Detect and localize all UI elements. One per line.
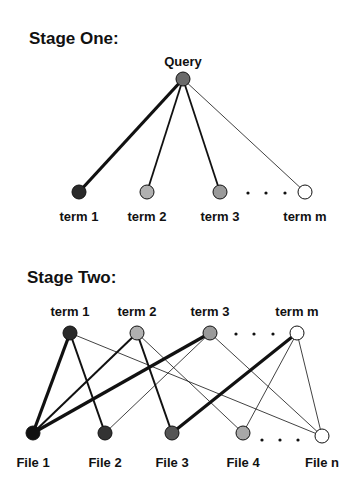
stage-one-term-2-node-icon	[140, 185, 154, 199]
retrieval-network-diagram: Stage One: Queryterm 1term 2term 3term m…	[0, 0, 344, 490]
stage-two-nodes: term 1term 2term 3term mFile 1File 2File…	[16, 304, 339, 470]
stage-one-term-3-label: term 3	[200, 209, 239, 224]
file-3-node-icon	[165, 426, 179, 440]
ellipsis-dot	[264, 191, 267, 194]
file-2-node-icon	[98, 426, 112, 440]
ellipsis-dot	[260, 438, 263, 441]
stage-two-term-1-label: term 1	[50, 304, 89, 319]
stage-two-term-3-node-icon	[203, 326, 217, 340]
stage-one-term-2-label: term 2	[127, 209, 166, 224]
stage-two-term-3-label: term 3	[190, 304, 229, 319]
file-5-node-icon	[315, 429, 329, 443]
query-label: Query	[164, 54, 202, 69]
ellipsis-dot	[234, 332, 237, 335]
stage-two-term-4-node-icon	[290, 326, 304, 340]
ellipsis-dot	[271, 332, 274, 335]
stage-one-term-1-label: term 1	[59, 209, 98, 224]
stage-two-term-2-label: term 2	[117, 304, 156, 319]
file-4-label: File 4	[226, 455, 260, 470]
query-edge	[79, 79, 183, 192]
ellipsis-dot	[296, 438, 299, 441]
stage-one-edges	[79, 79, 305, 192]
stage-two-term-1-node-icon	[63, 326, 77, 340]
stage-two-edges	[33, 333, 322, 436]
stage-two-term-4-label: term m	[275, 304, 318, 319]
file-2-label: File 2	[88, 455, 121, 470]
term-file-edge	[70, 333, 105, 433]
query-edge	[147, 79, 183, 192]
file-3-label: File 3	[155, 455, 188, 470]
stage-one-title: Stage One:	[29, 29, 119, 48]
file-4-node-icon	[236, 426, 250, 440]
ellipsis-dot	[252, 332, 255, 335]
stage-two-term-2-node-icon	[130, 326, 144, 340]
term-file-edge	[137, 333, 172, 433]
term-file-edge	[210, 333, 322, 436]
term-file-edge	[70, 333, 322, 436]
file-1-node-icon	[26, 426, 40, 440]
file-5-label: File n	[305, 455, 339, 470]
stage-one-term-4-label: term m	[283, 209, 326, 224]
file-1-label: File 1	[16, 455, 49, 470]
stage-one-term-1-node-icon	[72, 185, 86, 199]
stage-one-term-4-node-icon	[298, 185, 312, 199]
ellipsis-dot	[278, 438, 281, 441]
stage-one-term-3-node-icon	[213, 185, 227, 199]
ellipsis-dot	[246, 191, 249, 194]
query-node-icon	[176, 72, 190, 86]
ellipsis-dot	[283, 191, 286, 194]
stage-one-nodes: Queryterm 1term 2term 3term m	[59, 54, 326, 224]
term-file-edge	[33, 333, 70, 433]
term-file-edge	[297, 333, 322, 436]
stage-two-title: Stage Two:	[27, 268, 116, 287]
term-file-edge	[243, 333, 297, 433]
